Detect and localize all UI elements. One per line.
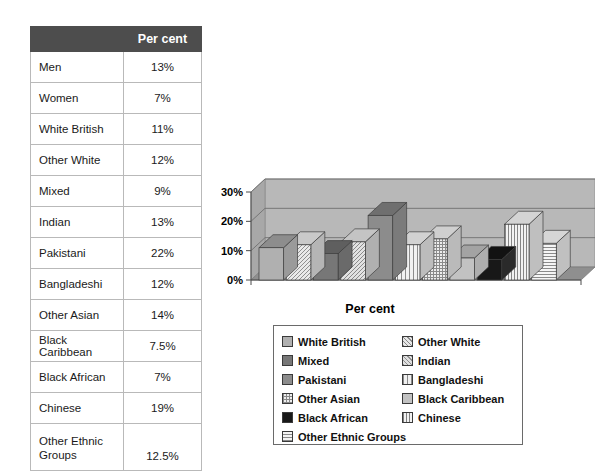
legend-label: Other White — [418, 336, 480, 348]
legend-entry: Other Asian — [282, 393, 402, 405]
legend-swatch-icon — [402, 374, 413, 385]
table-row: Other EthnicGroups12.5% — [31, 424, 202, 471]
table-row: Other Asian14% — [31, 300, 202, 331]
legend-entry: Black African — [282, 412, 402, 424]
table-row: White British11% — [31, 114, 202, 145]
table-cell-label: Men — [31, 52, 124, 83]
table-header-row: Per cent — [31, 27, 202, 52]
legend-swatch-icon — [282, 431, 293, 442]
chart-legend: White BritishOther WhiteMixedIndianPakis… — [273, 325, 523, 445]
table-cell-label: Bangladeshi — [31, 269, 124, 300]
table-header-label-col — [31, 27, 124, 52]
table-cell-label: Pakistani — [31, 238, 124, 269]
table-cell-value: 12.5% — [124, 424, 202, 471]
table-cell-value: 13% — [124, 52, 202, 83]
table-cell-label: Mixed — [31, 176, 124, 207]
legend-swatch-icon — [402, 355, 413, 366]
legend-label: Pakistani — [298, 374, 346, 386]
legend-swatch-icon — [402, 393, 413, 404]
table-cell-value: 19% — [124, 393, 202, 424]
table-cell-value: 7.5% — [124, 331, 202, 362]
legend-swatch-icon — [402, 412, 413, 423]
y-tick-label: 20% — [221, 215, 243, 227]
percent-table: Per cent Men13%Women7%White British11%Ot… — [30, 26, 202, 471]
table-cell-value: 12% — [124, 269, 202, 300]
table-row: Bangladeshi12% — [31, 269, 202, 300]
table-row: Black African7% — [31, 362, 202, 393]
table-row: Mixed9% — [31, 176, 202, 207]
table-cell-label: Chinese — [31, 393, 124, 424]
table-cell-value: 14% — [124, 300, 202, 331]
table-body: Men13%Women7%White British11%Other White… — [31, 52, 202, 471]
table-cell-label: Black African — [31, 362, 124, 393]
legend-label: Black African — [298, 412, 368, 424]
table-cell-value: 11% — [124, 114, 202, 145]
legend-entry: White British — [282, 336, 402, 348]
legend-entry: Other Ethnic Groups — [282, 431, 532, 443]
legend-entry: Indian — [402, 355, 532, 367]
legend-entry: Mixed — [282, 355, 402, 367]
chart-svg: 0%10%20%30% — [205, 178, 595, 308]
legend-label: Mixed — [298, 355, 329, 367]
legend-label: Other Asian — [298, 393, 360, 405]
legend-entry: Black Caribbean — [402, 393, 532, 405]
legend-swatch-icon — [402, 336, 413, 347]
chart-panel: 0%10%20%30% Per cent White BritishOther … — [205, 178, 595, 463]
legend-swatch-icon — [282, 374, 293, 385]
legend-grid: White BritishOther WhiteMixedIndianPakis… — [282, 332, 522, 446]
table-row: Men13% — [31, 52, 202, 83]
legend-swatch-icon — [282, 355, 293, 366]
table-cell-label: Other EthnicGroups — [31, 424, 124, 471]
table-header: Per cent — [31, 27, 202, 52]
table-cell-label: White British — [31, 114, 124, 145]
table-row: Other White12% — [31, 145, 202, 176]
legend-entry: Other White — [402, 336, 532, 348]
table-cell-label: Other White — [31, 145, 124, 176]
table-row: Black Caribbean7.5% — [31, 331, 202, 362]
y-tick-label: 30% — [221, 186, 243, 198]
bar-chart-plot: 0%10%20%30% — [205, 178, 595, 308]
table-cell-label: Black Caribbean — [31, 331, 124, 362]
legend-label: White British — [298, 336, 366, 348]
table-cell-value: 7% — [124, 362, 202, 393]
legend-label: Chinese — [418, 412, 461, 424]
legend-swatch-icon — [282, 336, 293, 347]
table-cell-value: 12% — [124, 145, 202, 176]
y-tick-label: 10% — [221, 245, 243, 257]
legend-entry: Pakistani — [282, 374, 402, 386]
table-row: Chinese19% — [31, 393, 202, 424]
chart-x-axis-title: Per cent — [205, 302, 535, 316]
legend-label: Black Caribbean — [418, 393, 504, 405]
table-row: Pakistani22% — [31, 238, 202, 269]
legend-label: Bangladeshi — [418, 374, 483, 386]
table-cell-label: Indian — [31, 207, 124, 238]
legend-entry: Chinese — [402, 412, 532, 424]
legend-entry: Bangladeshi — [402, 374, 532, 386]
table-row: Women7% — [31, 83, 202, 114]
table-cell-value: 22% — [124, 238, 202, 269]
table-cell-value: 13% — [124, 207, 202, 238]
table-cell-value: 9% — [124, 176, 202, 207]
table-cell-label: Other Asian — [31, 300, 124, 331]
y-tick-label: 0% — [227, 274, 243, 286]
table-cell-value: 7% — [124, 83, 202, 114]
legend-label: Other Ethnic Groups — [298, 431, 406, 443]
legend-swatch-icon — [282, 393, 293, 404]
legend-label: Indian — [418, 355, 450, 367]
table-cell-label: Women — [31, 83, 124, 114]
table-row: Indian13% — [31, 207, 202, 238]
legend-swatch-icon — [282, 412, 293, 423]
table-header-value-col: Per cent — [124, 27, 202, 52]
